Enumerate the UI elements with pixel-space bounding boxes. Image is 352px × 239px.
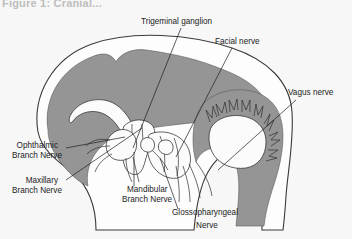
anatomical-diagram: Trigeminal ganglion Facial nerve Vagus n… bbox=[0, 0, 352, 239]
label-maxillary-branch-nerve-line2: Branch Nerve bbox=[12, 186, 63, 195]
label-mandibular-branch-nerve-line1: Mandibular bbox=[127, 185, 168, 194]
figure-container: Figure 1: Cranial... bbox=[0, 0, 352, 239]
label-vagus-nerve: Vagus nerve bbox=[288, 88, 334, 97]
label-glossopharyngeal-nerve-line2: Nerve bbox=[196, 221, 218, 230]
label-ophthalmic-branch-nerve-line2: Branch Nerve bbox=[12, 151, 63, 160]
label-mandibular-branch-nerve-line2: Branch Nerve bbox=[122, 195, 173, 204]
label-glossopharyngeal-nerve-line1: Glossopharyngeal bbox=[172, 208, 238, 217]
label-maxillary-branch-nerve-line1: Maxillary bbox=[26, 176, 59, 185]
label-trigeminal-ganglion: Trigeminal ganglion bbox=[141, 17, 213, 26]
label-ophthalmic-branch-nerve-line1: Ophthalmic bbox=[17, 141, 58, 150]
label-facial-nerve: Facial nerve bbox=[215, 37, 260, 46]
